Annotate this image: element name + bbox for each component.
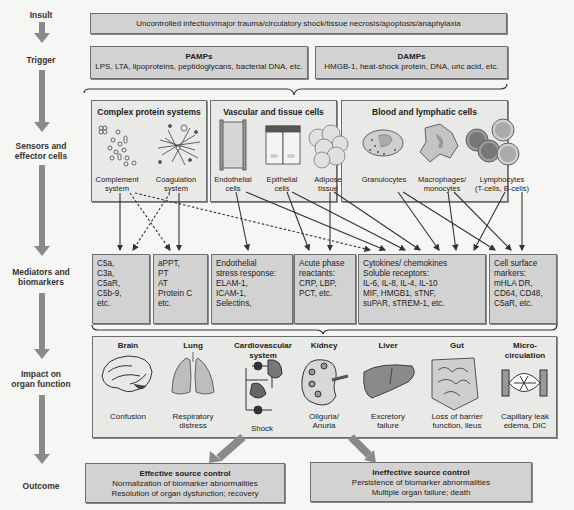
label-line: edema, DIC bbox=[494, 421, 556, 430]
label-line: Shock bbox=[232, 424, 292, 433]
organ-name-cardiovascular: Cardiovascular system bbox=[226, 341, 300, 361]
label-line: Epithelial bbox=[260, 175, 304, 184]
organ-effect-gut: Loss of barrier function, ileus bbox=[424, 412, 490, 430]
epithelial-icon bbox=[266, 126, 300, 164]
label-line: Coagulation bbox=[150, 175, 202, 184]
label-line: Capillary leak bbox=[494, 412, 556, 421]
granulocytes-label: Granulocytes bbox=[358, 175, 410, 184]
macrophages-label: Macrophages/ monocytes bbox=[414, 175, 470, 193]
label-line: Respiratory bbox=[163, 412, 223, 421]
label-line: Anuria bbox=[294, 421, 354, 430]
macrophage-icon bbox=[420, 124, 458, 162]
label-line: Macrophages/ bbox=[414, 175, 470, 184]
granulocyte-icon bbox=[363, 130, 403, 156]
dashed-arrows bbox=[130, 193, 370, 250]
brace-trigger bbox=[84, 84, 507, 95]
label-line: circulation bbox=[494, 351, 556, 361]
label-line: Lymphocytes bbox=[470, 175, 534, 184]
diagram-graphics bbox=[0, 0, 574, 510]
brace-mediators bbox=[92, 324, 557, 334]
label-line: function, ileus bbox=[424, 421, 490, 430]
label-line: Oliguria/ bbox=[294, 412, 354, 421]
label-line: failure bbox=[358, 421, 418, 430]
organ-name-gut: Gut bbox=[424, 341, 490, 350]
label-line: system bbox=[226, 351, 300, 361]
label-line: tissue bbox=[306, 184, 350, 193]
lymphocyte-icon bbox=[466, 119, 519, 165]
organ-effect-cardiovascular: Shock bbox=[232, 424, 292, 433]
label-line: distress bbox=[163, 421, 223, 430]
organ-effect-liver: Excretory failure bbox=[358, 412, 418, 430]
organ-effect-kidney: Oliguria/ Anuria bbox=[294, 412, 354, 430]
adipose-label: Adipose tissue bbox=[306, 175, 350, 193]
organ-name-lung: Lung bbox=[163, 341, 223, 350]
label-line: cells bbox=[260, 184, 304, 193]
label-line: Endothelial bbox=[211, 175, 255, 184]
label-line: system bbox=[150, 184, 202, 193]
effective-arrow bbox=[219, 437, 243, 458]
organ-name-liver: Liver bbox=[358, 341, 418, 350]
complement-icon bbox=[99, 126, 136, 166]
sensor-to-mediator-arrows bbox=[120, 192, 522, 250]
epithelial-label: Epithelial cells bbox=[260, 175, 304, 193]
label-line: monocytes bbox=[414, 184, 470, 193]
endothelial-icon bbox=[220, 120, 246, 170]
organ-effect-brain: Confusion bbox=[98, 412, 158, 421]
label-line: cells bbox=[211, 184, 255, 193]
gut-icon bbox=[432, 358, 478, 410]
ineffective-arrow bbox=[351, 437, 369, 455]
label-line: Excretory bbox=[358, 412, 418, 421]
adipose-icon bbox=[309, 125, 348, 168]
label-line: Complement bbox=[91, 175, 143, 184]
label-line: Loss of barrier bbox=[424, 412, 490, 421]
cardiovascular-icon bbox=[246, 360, 282, 414]
organ-effect-lung: Respiratory distress bbox=[163, 412, 223, 430]
label-line: Granulocytes bbox=[358, 175, 410, 184]
coagulation-label: Coagulation system bbox=[150, 175, 202, 193]
complement-label: Complement system bbox=[91, 175, 143, 193]
endothelial-label: Endothelial cells bbox=[211, 175, 255, 193]
coagulation-icon bbox=[158, 125, 200, 166]
label-line: system bbox=[91, 184, 143, 193]
lung-icon bbox=[172, 352, 214, 394]
kidney-icon bbox=[302, 360, 348, 405]
organ-name-microcirculation: Micro- circulation bbox=[494, 341, 556, 361]
microcirculation-icon bbox=[502, 370, 547, 396]
organ-name-kidney: Kidney bbox=[294, 341, 354, 350]
label-line: Cardiovascular bbox=[226, 341, 300, 351]
brain-icon bbox=[102, 356, 152, 392]
liver-icon bbox=[364, 365, 415, 398]
lymphocytes-label: Lymphocytes (T-cells, B-cells) bbox=[470, 175, 534, 193]
label-line: Adipose bbox=[306, 175, 350, 184]
label-line: Micro- bbox=[494, 341, 556, 351]
label-line: (T-cells, B-cells) bbox=[470, 184, 534, 193]
label-line: Confusion bbox=[98, 412, 158, 421]
organ-name-brain: Brain bbox=[98, 341, 158, 350]
organ-effect-microcirculation: Capillary leak edema, DIC bbox=[494, 412, 556, 430]
